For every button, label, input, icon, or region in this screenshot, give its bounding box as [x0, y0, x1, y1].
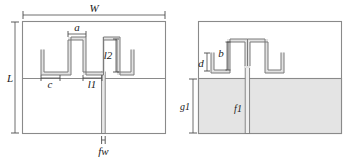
- dimension-label-l1: l1: [88, 78, 97, 90]
- dimension-label-L: L: [6, 72, 13, 84]
- dimension-f1: f1: [234, 103, 242, 114]
- back-view-panel: d b g1 f1: [180, 22, 342, 134]
- dimension-g1: g1: [180, 79, 197, 133]
- front-feedline-strip: [102, 72, 106, 134]
- front-view-panel: W L a c: [6, 2, 166, 157]
- dimension-label-g1: g1: [180, 101, 190, 112]
- dimension-label-l2: l2: [104, 49, 113, 61]
- dimension-label-W: W: [89, 2, 99, 14]
- back-feedline-strip: [245, 66, 249, 134]
- dimension-label-f1: f1: [234, 103, 242, 114]
- dimension-label-a: a: [74, 21, 80, 33]
- dimension-W: W: [23, 2, 165, 19]
- dimension-label-fw: fw: [98, 145, 109, 157]
- dimension-label-b: b: [218, 47, 224, 59]
- back-feedline: [245, 66, 249, 134]
- dimension-L: L: [6, 22, 19, 133]
- dimension-label-d: d: [198, 57, 204, 69]
- antenna-geometry-figure: W L a c: [0, 0, 357, 162]
- dimension-fw: fw: [98, 136, 109, 157]
- figure-canvas: W L a c: [0, 0, 357, 162]
- ground-plane: [199, 79, 342, 134]
- dimension-label-c: c: [48, 78, 53, 90]
- front-feedline: [102, 72, 106, 134]
